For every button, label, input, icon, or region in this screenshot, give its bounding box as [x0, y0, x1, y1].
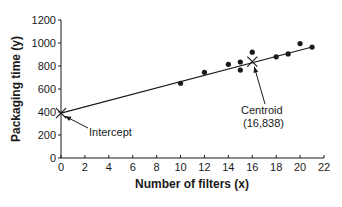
y-tick-label: 600: [38, 83, 56, 95]
y-tick-label: 400: [38, 106, 56, 118]
data-point: [274, 54, 279, 59]
x-tick-label: 8: [154, 161, 160, 173]
x-tick-label: 0: [58, 161, 64, 173]
y-tick-label: 1200: [32, 14, 56, 26]
y-axis-title: Packaging time (y): [9, 36, 23, 142]
x-tick-label: 18: [270, 161, 282, 173]
centroid-coords-label: (16,838): [243, 117, 284, 129]
data-point: [238, 67, 243, 72]
x-tick-label: 16: [246, 161, 258, 173]
data-point: [297, 41, 302, 46]
scatter-chart: 0246810121416182022020040060080010001200…: [0, 0, 342, 207]
data-point: [286, 51, 291, 56]
y-tick-label: 200: [38, 129, 56, 141]
x-tick-label: 22: [318, 161, 330, 173]
x-tick-label: 10: [174, 161, 186, 173]
data-point: [226, 62, 231, 67]
x-tick-label: 2: [82, 161, 88, 173]
y-tick-label: 800: [38, 60, 56, 72]
centroid-arrow-icon: [254, 67, 265, 104]
y-tick-label: 1000: [32, 37, 56, 49]
intercept-arrow-icon: [65, 116, 88, 128]
x-axis-title: Number of filters (x): [135, 177, 249, 191]
data-point: [309, 44, 314, 49]
data-point: [250, 50, 255, 55]
axes: 0246810121416182022020040060080010001200: [32, 14, 331, 173]
x-tick-label: 4: [106, 161, 112, 173]
data-point: [178, 81, 183, 86]
x-tick-label: 12: [198, 161, 210, 173]
data-point: [202, 70, 207, 75]
x-tick-label: 20: [294, 161, 306, 173]
intercept-label: Intercept: [89, 126, 132, 138]
x-tick-label: 14: [222, 161, 234, 173]
x-tick-label: 6: [130, 161, 136, 173]
centroid-label: Centroid: [241, 104, 283, 116]
data-point: [238, 59, 243, 64]
y-tick-label: 0: [50, 152, 56, 164]
